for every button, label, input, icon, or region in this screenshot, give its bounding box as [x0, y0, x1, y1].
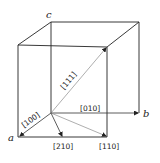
axis-label-a: a [8, 132, 14, 143]
vector-110 [51, 113, 106, 136]
label-210: [210] [53, 142, 73, 151]
label-111: [111] [59, 70, 79, 91]
label-110: [110] [99, 142, 119, 151]
direction-vectors [20, 48, 138, 136]
vector-210 [51, 113, 62, 136]
label-100: [100] [20, 110, 42, 129]
axis-label-b: b [143, 108, 149, 119]
label-010: [010] [80, 104, 100, 113]
cubic-cell-diagram: c a b [100] [010] [111] [210] [110] [0, 0, 160, 163]
axis-label-c: c [46, 9, 52, 20]
